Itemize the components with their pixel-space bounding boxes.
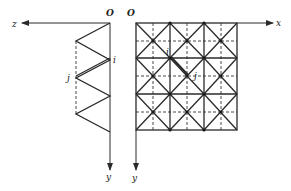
- plan-nodes: [152, 21, 223, 131]
- side-node-i-label: i: [113, 55, 116, 65]
- side-origin-label: O: [106, 8, 114, 18]
- truss-diagram: z O y i j O x y: [0, 0, 291, 191]
- member-ij-highlight: [76, 58, 110, 76]
- side-view: z O y i j: [11, 8, 116, 182]
- plan-node-j-label: j: [192, 71, 197, 81]
- plan-y-axis-label: y: [131, 173, 138, 183]
- z-axis-label: z: [11, 19, 17, 29]
- x-axis-label: x: [276, 18, 281, 28]
- plan-origin-label: O: [127, 8, 135, 18]
- side-web-members: [76, 23, 110, 132]
- plan-node-i-label: i: [166, 47, 169, 57]
- plan-member-ij-highlight: [171, 57, 188, 75]
- side-node-j-label: j: [65, 73, 70, 83]
- plan-view: O x y: [127, 8, 281, 183]
- side-y-axis-label: y: [105, 172, 112, 182]
